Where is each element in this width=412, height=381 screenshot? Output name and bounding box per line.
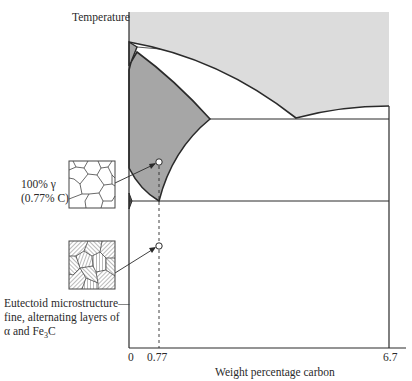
austenite-annotation-line2: (0.77% C) <box>21 191 69 205</box>
pearlite-annotation-line1: Eutectoid microstructure— <box>4 296 130 310</box>
eutectoid-point <box>156 243 162 249</box>
austenite-annotation-line1: 100% γ <box>21 177 56 191</box>
x-tick-077: 0.77 <box>147 350 167 364</box>
x-tick-0: 0 <box>128 350 134 364</box>
y-axis-label: Temperature <box>72 10 130 24</box>
pearlite-annotation-text: α and Fe <box>4 325 44 337</box>
leader-arrow-lower <box>115 248 155 273</box>
austenite-point <box>156 159 162 165</box>
austenite-region <box>129 52 210 201</box>
pearlite-annotation-line3: α and Fe3C <box>4 324 56 343</box>
pearlite-annotation-suffix: C <box>48 325 56 337</box>
x-tick-67: 6.7 <box>383 350 397 364</box>
austenite-microstructure-icon <box>69 161 115 208</box>
x-axis-label: Weight percentage carbon <box>215 365 335 379</box>
pearlite-microstructure-icon <box>69 241 115 289</box>
pearlite-annotation-line2: fine, alternating layers of <box>4 310 120 324</box>
